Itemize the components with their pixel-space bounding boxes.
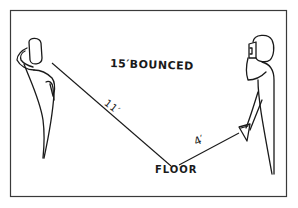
light-path	[52, 63, 239, 166]
frame-border	[11, 11, 287, 197]
segment-subject-to-floor	[52, 63, 171, 166]
photographer-figure	[239, 35, 274, 174]
subject-figure	[17, 38, 55, 158]
line-art	[0, 0, 298, 208]
floor-label: FLOOR	[155, 164, 198, 175]
diagram-canvas: 15′BOUNCED 11′ 4′ FLOOR	[0, 0, 298, 208]
segment-floor-to-flash	[179, 133, 239, 165]
